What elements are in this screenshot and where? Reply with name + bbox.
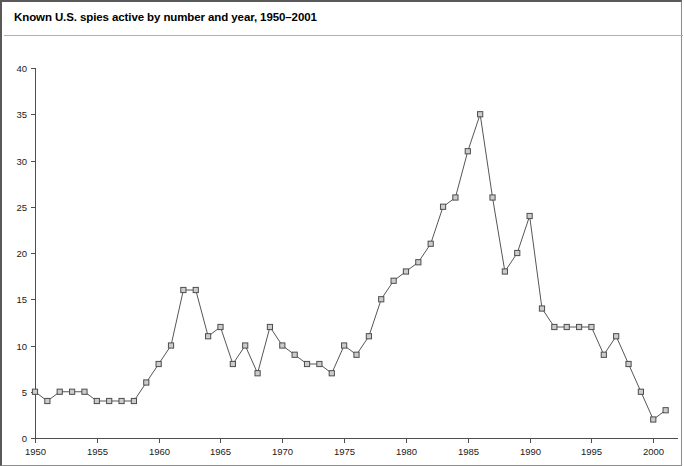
y-tick-label: 20 (16, 248, 27, 259)
data-point-marker: 1954: 5 (82, 389, 87, 394)
x-tick-label: 1980 (396, 446, 417, 457)
data-point-marker: 1951: 4 (45, 398, 50, 403)
data-point-marker: 1957: 4 (119, 398, 124, 403)
data-point-marker: 1968: 7 (255, 371, 260, 376)
data-point-marker: 1955: 4 (94, 398, 99, 403)
x-tick-label: 1950 (25, 446, 46, 457)
data-point-marker: 1976: 9 (354, 352, 359, 357)
x-tick-label: 1955 (87, 446, 108, 457)
data-point-marker: 1963: 16 (193, 287, 198, 292)
data-point-marker: 1970: 10 (280, 343, 285, 348)
data-point-marker: 1979: 17 (391, 278, 396, 283)
x-tick-label: 1985 (458, 446, 479, 457)
spies-series-line (35, 114, 666, 419)
data-point-marker: 1988: 18 (502, 269, 507, 274)
data-point-marker: 1986: 35 (478, 112, 483, 117)
data-point-marker: 1984: 26 (453, 195, 458, 200)
x-axis: 1950195519601965197019751980198519901995… (25, 439, 678, 457)
data-point-marker: 1965: 12 (218, 324, 223, 329)
data-point-marker: 1978: 15 (379, 297, 384, 302)
data-point-marker: 1958: 4 (131, 398, 136, 403)
data-point-marker: 1972: 8 (304, 361, 309, 366)
data-point-marker: 1961: 10 (168, 343, 173, 348)
data-point-marker: 1999: 5 (638, 389, 643, 394)
x-tick-label: 1995 (581, 446, 602, 457)
y-tick-label: 25 (16, 202, 27, 213)
data-point-marker: 1983: 25 (440, 204, 445, 209)
data-point-marker: 1952: 5 (57, 389, 62, 394)
y-tick-label: 15 (16, 294, 27, 305)
y-axis: 0510152025303540 (16, 63, 35, 444)
data-point-marker: 1995: 12 (589, 324, 594, 329)
y-tick-label: 40 (16, 63, 27, 74)
data-point-marker: 1994: 12 (576, 324, 581, 329)
data-point-marker: 1980: 18 (403, 269, 408, 274)
data-point-marker: 1967: 10 (243, 343, 248, 348)
data-point-marker: 2001: 3 (663, 408, 668, 413)
x-tick-label: 1965 (210, 446, 231, 457)
data-point-marker: 1993: 12 (564, 324, 569, 329)
y-tick-label: 5 (22, 387, 27, 398)
data-point-markers: 1950: 51951: 41952: 51953: 51954: 51955:… (32, 112, 668, 422)
data-point-marker: 1969: 12 (267, 324, 272, 329)
y-tick-label: 0 (22, 433, 27, 444)
data-point-marker: 1950: 5 (32, 389, 37, 394)
data-point-marker: 1953: 5 (70, 389, 75, 394)
x-tick-label: 1975 (334, 446, 355, 457)
line-chart-svg: 0510152025303540 19501955196019651970197… (2, 2, 684, 466)
data-point-marker: 1977: 11 (366, 334, 371, 339)
y-tick-label: 35 (16, 109, 27, 120)
data-point-marker: 2000: 2 (651, 417, 656, 422)
data-point-marker: 1991: 14 (539, 306, 544, 311)
data-point-marker: 1971: 9 (292, 352, 297, 357)
data-point-marker: 1960: 8 (156, 361, 161, 366)
data-point-marker: 1981: 19 (416, 260, 421, 265)
data-point-marker: 1992: 12 (552, 324, 557, 329)
data-point-marker: 1990: 24 (527, 213, 532, 218)
data-point-marker: 1998: 8 (626, 361, 631, 366)
data-point-marker: 1964: 11 (206, 334, 211, 339)
x-tick-label: 1960 (149, 446, 170, 457)
data-point-marker: 1996: 9 (601, 352, 606, 357)
x-tick-label: 1990 (520, 446, 541, 457)
data-point-marker: 1973: 8 (317, 361, 322, 366)
data-point-marker: 1989: 20 (515, 250, 520, 255)
data-point-marker: 1974: 7 (329, 371, 334, 376)
plot-area: 0510152025303540 19501955196019651970197… (2, 2, 684, 466)
data-point-marker: 1966: 8 (230, 361, 235, 366)
x-tick-label: 1970 (272, 446, 293, 457)
data-point-marker: 1997: 11 (614, 334, 619, 339)
data-point-marker: 1962: 16 (181, 287, 186, 292)
data-point-marker: 1959: 6 (144, 380, 149, 385)
data-point-marker: 1982: 21 (428, 241, 433, 246)
y-tick-label: 30 (16, 156, 27, 167)
data-point-marker: 1956: 4 (107, 398, 112, 403)
data-point-marker: 1985: 31 (465, 149, 470, 154)
data-point-marker: 1987: 26 (490, 195, 495, 200)
x-tick-label: 2000 (643, 446, 664, 457)
y-tick-label: 10 (16, 341, 27, 352)
data-point-marker: 1975: 10 (342, 343, 347, 348)
